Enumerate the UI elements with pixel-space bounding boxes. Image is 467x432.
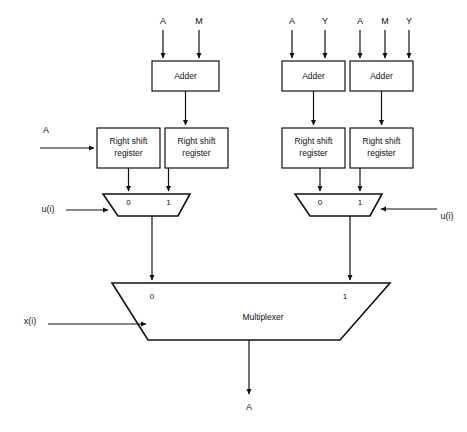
label-main-mux-output: A — [246, 402, 252, 412]
adder-right2-label: Adder — [370, 71, 393, 81]
adder-right1-label: Adder — [302, 71, 325, 81]
rsr-2-label-line1: Right shift — [178, 136, 216, 146]
logic-diagram-canvas: A M Adder A Right shift register Right s… — [0, 0, 467, 432]
mux-left-sel0-label: 0 — [126, 198, 131, 207]
label-mux-left-select: u(i) — [42, 204, 55, 214]
main-mux-sel0-label: 0 — [150, 292, 155, 301]
mux-left-sel1-label: 1 — [166, 198, 171, 207]
label-adder-right1-input-a: A — [289, 16, 295, 26]
mux-right-sel1-label: 1 — [358, 198, 363, 207]
diagram-svg: A M Adder A Right shift register Right s… — [0, 0, 467, 432]
adder-left-label: Adder — [174, 71, 197, 81]
label-adder-right2-input-a: A — [357, 16, 363, 26]
rsr-2-label-line2: register — [182, 148, 211, 158]
main-mux-sel1-label: 1 — [343, 292, 348, 301]
label-register-a-input: A — [43, 125, 49, 135]
label-adder-left-input-m: M — [195, 16, 203, 26]
rsr-1-label-line1: Right shift — [110, 136, 148, 146]
rsr-4-label-line1: Right shift — [363, 136, 401, 146]
label-adder-right2-input-y: Y — [406, 16, 412, 26]
rsr-4-label-line2: register — [367, 148, 396, 158]
rsr-3-label-line1: Right shift — [295, 136, 333, 146]
rsr-1-label-line2: register — [114, 148, 143, 158]
rsr-3-label-line2: register — [299, 148, 328, 158]
mux-left-shape — [103, 194, 190, 216]
label-main-mux-select: x(i) — [24, 316, 37, 326]
label-adder-right2-input-m: M — [381, 16, 389, 26]
main-mux-label: Multiplexer — [242, 312, 283, 322]
mux-right-sel0-label: 0 — [318, 198, 323, 207]
label-adder-left-input-a: A — [160, 16, 166, 26]
label-adder-right1-input-y: Y — [322, 16, 328, 26]
label-mux-right-select: u(i) — [441, 211, 454, 221]
mux-right-shape — [295, 194, 382, 216]
